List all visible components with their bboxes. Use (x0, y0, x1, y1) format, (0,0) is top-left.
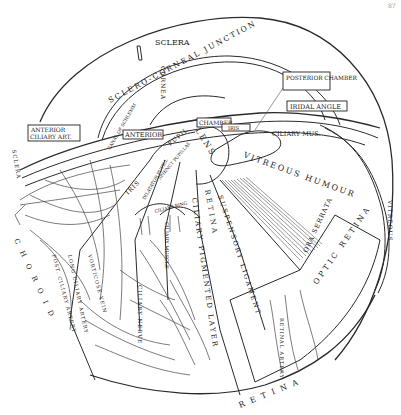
label-choroid: CHOROID (12, 237, 58, 324)
label-sclera-left: SCLERA (11, 149, 22, 179)
vitreous-boundary-2 (325, 128, 389, 293)
label-cornea: CORNEA (160, 66, 167, 100)
eye-diagram: 87 (0, 0, 401, 415)
retinal-artery (270, 290, 318, 372)
label-anterior: ANTERIOR (123, 130, 163, 139)
svg-text:ANTERIOR: ANTERIOR (30, 126, 66, 133)
label-retina-bottom: RETINA (237, 376, 304, 410)
label-vorticose-vein: VORTICOSE VEIN (87, 253, 109, 314)
label-iridal-angle: IRIDAL ANGLE (287, 101, 347, 111)
label-lens: LENS (193, 126, 217, 158)
svg-text:POSTERIOR CHAMBER: POSTERIOR CHAMBER (286, 75, 357, 81)
svg-text:ANTERIOR: ANTERIOR (124, 131, 163, 139)
label-ciliary-nerve: CILIARY NERVE (137, 285, 143, 344)
svg-text:CILIARY ART.: CILIARY ART. (30, 133, 72, 140)
page-number: 87 (388, 2, 396, 9)
label-ciliary-mus: CILIARY MUS. (272, 130, 321, 138)
label-anterior-ciliary-art: ANTERIOR CILIARY ART. (28, 125, 80, 141)
choroid-vessels (15, 160, 210, 375)
label-iris-small: IRIS (222, 124, 250, 131)
label-retinal-artery: RETINAL ARTERY (279, 318, 285, 379)
label-suspensory-ligament: SUSPENSORY LIGAMENT (216, 194, 263, 317)
radial-sectors (70, 160, 300, 395)
label-sclera: SCLERA (155, 38, 190, 47)
svg-text:IRIS: IRIS (228, 125, 240, 131)
label-ciliary-muscle: CILIARY MUSCLE (164, 222, 170, 269)
label-schlemm: CANAL OF SCHLEMM (107, 102, 138, 150)
sclera-marker-icon (137, 46, 142, 60)
label-vitreous-right: VITREOUS (387, 199, 394, 242)
svg-text:IRIDAL ANGLE: IRIDAL ANGLE (290, 103, 341, 111)
label-iris: IRIS (124, 178, 141, 195)
label-dilatator-pupillae: DILATATOR PUPILL (142, 158, 169, 200)
label-ora-serrata: ORA SERRATA (302, 196, 335, 254)
